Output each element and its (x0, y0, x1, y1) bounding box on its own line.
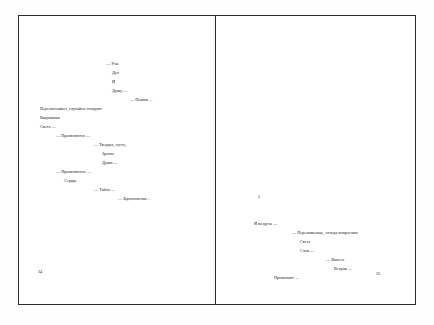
poem-line: — Пожми ... (130, 98, 152, 102)
poem-line: — Тайна — (94, 188, 115, 192)
left-page: — УзыДухИДушу —— Пожми ...Перелистывает,… (18, 15, 216, 305)
poem-line: Проявляют — (274, 276, 299, 280)
poem-line: Света (300, 240, 310, 244)
right-page-poem: И воздуха —— Переливаемые, отходя вопрос… (216, 15, 416, 305)
page-number-left: 34 (38, 270, 42, 274)
poem-line: — Проявляются — (56, 134, 90, 138)
poem-line: Дух (112, 71, 119, 75)
poem-line: Душу — (112, 89, 127, 93)
right-page: И воздуха —— Переливаемые, отходя вопрос… (216, 15, 416, 305)
poem-line: И (112, 80, 115, 84)
poem-line: И воздуха — (254, 222, 277, 226)
book-spread: — УзыДухИДушу —— Пожми ...Перелистывает,… (0, 0, 434, 325)
poem-line: — Переливаемые, отходя вопросами (292, 231, 358, 235)
section-number: 5 (258, 195, 260, 199)
poem-line: Слов — (300, 249, 314, 253)
poem-line: Сердце (64, 179, 77, 183)
poem-line: Перелистывает, случайно танцуют (40, 107, 102, 111)
poem-line: Видимыми (40, 116, 60, 120)
poem-line: — Вдохновения .. (118, 197, 150, 201)
poem-line: — Узы (106, 62, 118, 66)
poem-line: — Твердая, густо, (94, 143, 126, 147)
poem-line: Ветров — (334, 267, 352, 271)
poem-line: Души — (102, 161, 118, 165)
page-number-right: 35 (376, 272, 380, 276)
poem-line: Зрячие (102, 152, 114, 156)
poem-line: — Вынете (326, 258, 345, 262)
left-page-poem: — УзыДухИДушу —— Пожми ...Перелистывает,… (18, 15, 216, 305)
poem-line: — Проявляются: — (56, 170, 91, 174)
poem-line: Света — (40, 125, 56, 129)
